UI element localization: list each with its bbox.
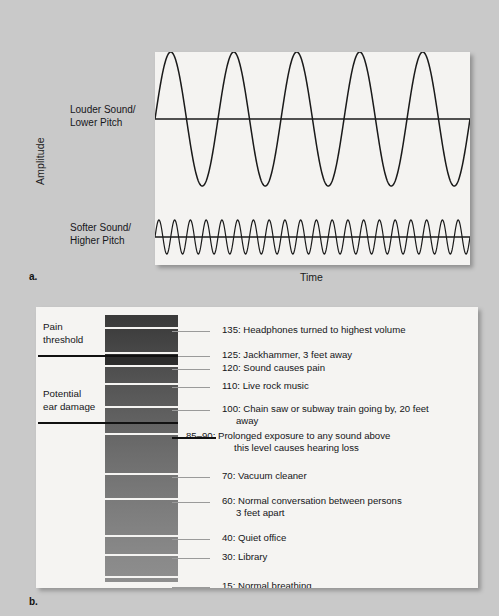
scale-label-text: Normal conversation between persons	[238, 495, 402, 506]
bar-separator	[105, 576, 178, 578]
scale-label: 100: Chain saw or subway train going by,…	[222, 403, 429, 428]
scale-label: 40: Quiet office	[222, 532, 286, 544]
bar-separator	[105, 365, 178, 367]
louder-sound-label: Louder Sound/ Lower Pitch	[70, 104, 136, 129]
scale-label-value: 70:	[222, 470, 235, 481]
time-axis-label: Time	[300, 271, 323, 283]
scale-label: 60: Normal conversation between persons3…	[222, 495, 402, 520]
scale-tick-line	[172, 369, 210, 370]
threshold-note-line2: ear damage	[43, 401, 95, 414]
scale-label-continuation: 3 feet apart	[222, 507, 402, 519]
scale-label: 15: Normal breathing	[222, 580, 312, 588]
scale-label-value: 110:	[222, 380, 240, 391]
softer-sound-label-line2: Higher Pitch	[70, 235, 124, 246]
waveform-svg	[155, 52, 470, 265]
scale-tick-line	[172, 387, 210, 388]
scale-label-value: 30:	[222, 551, 235, 562]
bar-separator	[105, 433, 178, 435]
scale-tick-line	[172, 477, 210, 478]
threshold-note: Painthreshold	[43, 321, 83, 346]
bar-separator	[105, 352, 178, 354]
figure-root: Amplitude Louder Sound/ Lower Pitch Soft…	[0, 0, 499, 616]
threshold-note-line1: Pain	[43, 321, 83, 334]
threshold-note-line1: Potential	[43, 388, 95, 401]
scale-tick-line	[172, 587, 210, 588]
panel-b-decibel-scale: 135: Headphones turned to highest volume…	[0, 300, 499, 616]
scale-label-text: Vacuum cleaner	[238, 470, 307, 481]
panel-a-waveforms: Amplitude Louder Sound/ Lower Pitch Soft…	[0, 0, 499, 300]
scale-label-text: Library	[238, 551, 267, 562]
scale-label-continuation: away	[222, 415, 429, 427]
bar-separator	[105, 554, 178, 556]
scale-label-text: Jackhammer, 3 feet away	[243, 349, 352, 360]
scale-label-text: Quiet office	[238, 532, 286, 543]
scale-label-text: Headphones turned to highest volume	[243, 324, 405, 335]
waveform-plot-area	[155, 52, 470, 265]
bar-separator	[105, 327, 178, 329]
scale-label-value: 15:	[222, 580, 235, 588]
decibel-plot-area: 135: Headphones turned to highest volume…	[36, 307, 478, 588]
scale-tick-line	[172, 539, 210, 540]
scale-tick-line	[172, 502, 210, 503]
scale-label-value: 120:	[222, 362, 241, 373]
bar-separator	[105, 498, 178, 500]
scale-label-text: Normal breathing	[238, 580, 312, 588]
bar-separator	[105, 383, 178, 385]
softer-sound-label-line1: Softer Sound/	[70, 222, 131, 233]
scale-label-text: Sound causes pain	[243, 362, 325, 373]
louder-sound-label-line1: Louder Sound/	[70, 104, 136, 115]
bar-separator	[105, 473, 178, 475]
soft-waveform-path	[155, 220, 470, 254]
bar-separator	[105, 406, 178, 408]
threshold-note: Potentialear damage	[43, 388, 95, 413]
scale-label: 85–90: Prolonged exposure to any sound a…	[186, 430, 390, 455]
softer-sound-label: Softer Sound/ Higher Pitch	[70, 222, 131, 247]
scale-label-value: 85–90:	[186, 430, 215, 441]
scale-label: 120: Sound causes pain	[222, 362, 325, 374]
scale-tick-line	[172, 331, 210, 332]
scale-label: 30: Library	[222, 551, 267, 563]
bar-separator	[105, 535, 178, 537]
scale-label-text: Chain saw or subway train going by, 20 f…	[243, 403, 428, 414]
scale-label-value: 100:	[222, 403, 241, 414]
scale-label-value: 135:	[222, 324, 241, 335]
scale-label-value: 60:	[222, 495, 235, 506]
scale-tick-line	[172, 558, 210, 559]
scale-label: 135: Headphones turned to highest volume	[222, 324, 406, 336]
scale-label: 70: Vacuum cleaner	[222, 470, 307, 482]
panel-b-letter: b.	[29, 596, 38, 607]
amplitude-axis-label: Amplitude	[34, 137, 46, 185]
scale-label-text: Prolonged exposure to any sound above	[218, 430, 390, 441]
threshold-note-line2: threshold	[43, 334, 83, 347]
panel-a-letter: a.	[29, 271, 37, 282]
scale-tick-line	[172, 410, 210, 411]
scale-label: 125: Jackhammer, 3 feet away	[222, 349, 352, 361]
scale-label-text: Live rock music	[243, 380, 309, 391]
scale-label-value: 125:	[222, 349, 241, 360]
scale-label-continuation: this level causes hearing loss	[186, 442, 390, 454]
scale-label-value: 40:	[222, 532, 235, 543]
louder-sound-label-line2: Lower Pitch	[70, 117, 122, 128]
threshold-rule	[38, 422, 178, 424]
threshold-rule	[38, 355, 178, 357]
scale-label: 110: Live rock music	[222, 380, 309, 392]
